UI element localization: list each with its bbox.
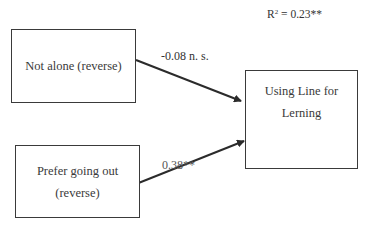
node-label-line-1: Using Line for <box>265 80 339 102</box>
node-label-line-2: Lerning <box>282 102 322 124</box>
node-prefer-going-out: Prefer going out (reverse) <box>15 145 140 218</box>
node-not-alone: Not alone (reverse) <box>11 29 136 103</box>
edge-label-not-alone: -0.08 n. s. <box>161 49 209 64</box>
node-outcome: Using Line for Lerning <box>245 70 358 169</box>
edge-label-prefer-going-out: 0.38** <box>162 158 195 173</box>
node-label-line-2: (reverse) <box>55 182 99 204</box>
arrow-not-alone-to-outcome <box>136 60 241 101</box>
node-label-line-1: Prefer going out <box>37 160 118 182</box>
node-label: Not alone (reverse) <box>25 55 121 77</box>
r-squared-label: R2 = 0.23** <box>267 8 322 20</box>
